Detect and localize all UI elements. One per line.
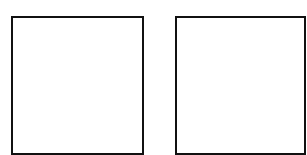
right-square xyxy=(175,16,306,155)
left-square xyxy=(11,16,144,155)
